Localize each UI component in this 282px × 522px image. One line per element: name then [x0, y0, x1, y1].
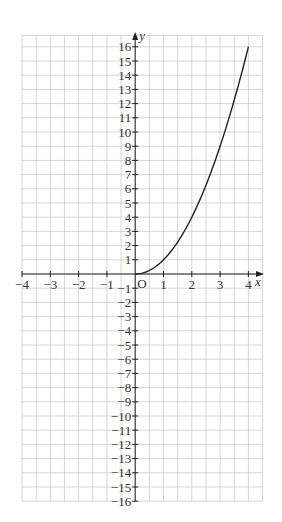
x-tick-label: −4 — [15, 277, 29, 292]
y-tick-label: 15 — [118, 54, 131, 69]
y-tick-label: −3 — [117, 309, 131, 324]
y-tick-label: −9 — [117, 394, 131, 409]
y-tick-label: −14 — [111, 465, 132, 480]
y-tick-label: −6 — [117, 352, 131, 367]
y-tick-label: −15 — [111, 480, 131, 495]
y-tick-label: 6 — [125, 181, 132, 196]
y-tick-label: −10 — [111, 409, 131, 424]
y-tick-label: −8 — [117, 380, 131, 395]
y-tick-label: −5 — [117, 338, 131, 353]
y-tick-label: 9 — [125, 139, 132, 154]
x-tick-label: −1 — [100, 277, 114, 292]
y-tick-label: 12 — [118, 96, 131, 111]
y-tick-label: −7 — [117, 366, 131, 381]
y-tick-label: 2 — [125, 238, 132, 253]
y-tick-label: 4 — [125, 210, 132, 225]
x-tick-label: 4 — [245, 277, 252, 292]
x-tick-label: −2 — [72, 277, 86, 292]
x-axis-label: x — [254, 274, 261, 289]
y-tick-label: −16 — [111, 494, 132, 509]
y-tick-label: 10 — [118, 125, 131, 140]
y-tick-label: 7 — [125, 167, 132, 182]
origin-label: O — [137, 276, 146, 291]
y-tick-label: 1 — [125, 252, 132, 267]
x-tick-label: 1 — [160, 277, 167, 292]
y-axis-arrow-icon — [132, 32, 138, 40]
y-tick-label: 11 — [119, 110, 132, 125]
y-axis-label: y — [137, 28, 145, 43]
x-tick-label: 2 — [189, 277, 196, 292]
y-tick-label: −12 — [111, 437, 131, 452]
grid-lines — [22, 35, 263, 501]
axes — [22, 32, 264, 501]
y-tick-label: 8 — [125, 153, 132, 168]
y-tick-label: −13 — [111, 451, 131, 466]
y-tick-label: 13 — [118, 82, 131, 97]
y-tick-label: −2 — [117, 295, 131, 310]
y-tick-label: −4 — [117, 323, 131, 338]
x-tick-label: −3 — [43, 277, 57, 292]
y-tick-label: −11 — [111, 423, 131, 438]
y-tick-label: 16 — [118, 39, 132, 54]
y-tick-label: 14 — [118, 68, 132, 83]
x-tick-label: 3 — [217, 277, 224, 292]
y-tick-label: 5 — [125, 196, 132, 211]
y-tick-label: 3 — [125, 224, 132, 239]
y-tick-label: −1 — [117, 281, 131, 296]
graph-canvas: −4−3−2−1123416151413121110987654321−1−2−… — [0, 0, 282, 522]
